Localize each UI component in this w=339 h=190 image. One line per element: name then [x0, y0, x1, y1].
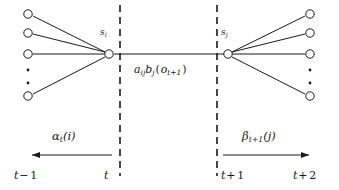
hmm-trellis-figure: si sj aijbj(ot+1) αt(i) βt+1(j) t−1 t t+… [0, 0, 339, 190]
beta-arrow-head [301, 152, 309, 158]
left-column-nodes [24, 10, 32, 100]
time-tick-t-plus-1: t+1 [221, 170, 245, 181]
state-node-si [105, 50, 113, 58]
left-vertical-ellipsis [27, 69, 30, 85]
state-node [306, 29, 314, 37]
ellipsis-dot [309, 82, 312, 85]
ellipsis-dot [309, 69, 312, 72]
state-node [306, 50, 314, 58]
time-tick-t: t [104, 170, 108, 181]
state-node [24, 50, 32, 58]
state-node [306, 10, 314, 18]
edge-left-1 [33, 16, 105, 52]
edge-left-2 [33, 34, 105, 52]
transition-emission-label: aijbj(ot+1) [134, 64, 187, 77]
alpha-arrow-head [32, 152, 40, 158]
trellis-drawing [0, 0, 339, 190]
state-label-si: si [100, 28, 107, 38]
left-fan-edges [33, 16, 105, 94]
alpha-label: αt(i) [52, 131, 76, 144]
edge-right-1 [232, 16, 305, 52]
right-fan-edges [232, 16, 305, 94]
edge-right-4 [232, 57, 305, 94]
beta-arrow [223, 152, 309, 158]
alpha-arrow [32, 152, 112, 158]
state-node [24, 29, 32, 37]
state-node [24, 10, 32, 18]
edge-left-4 [33, 57, 105, 94]
right-column-nodes [306, 10, 314, 100]
state-node [306, 92, 314, 100]
beta-label: βt+1(j) [242, 131, 276, 144]
state-node [24, 92, 32, 100]
state-label-sj: sj [221, 28, 228, 38]
state-node-sj [224, 50, 232, 58]
time-tick-t-plus-2: t+2 [293, 170, 317, 181]
right-vertical-ellipsis [309, 69, 312, 85]
ellipsis-dot [27, 69, 30, 72]
ellipsis-dot [27, 82, 30, 85]
edge-right-2 [232, 34, 305, 52]
time-tick-t-minus-1: t−1 [14, 170, 38, 181]
